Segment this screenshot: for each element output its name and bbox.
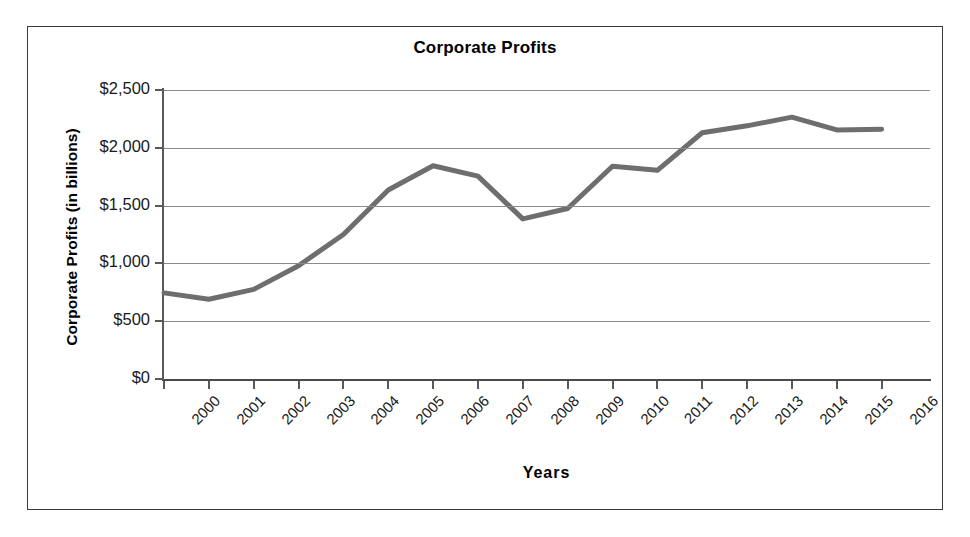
gridline — [163, 206, 930, 207]
x-axis-title: Years — [163, 464, 930, 482]
x-axis-line — [162, 379, 931, 381]
data-series-line — [163, 90, 930, 379]
x-axis-tick — [836, 381, 838, 389]
y-axis-tick — [155, 262, 164, 264]
y-axis-tick-label: $500 — [46, 310, 150, 329]
x-axis-tick — [701, 381, 703, 389]
y-axis-tick — [155, 89, 164, 91]
x-axis-tick — [522, 381, 524, 389]
gridline — [163, 90, 930, 91]
y-axis-tick — [155, 147, 164, 149]
gridline — [163, 263, 930, 264]
x-axis-tick — [253, 381, 255, 389]
x-axis-tick — [567, 381, 569, 389]
gridline — [163, 148, 930, 149]
x-axis-tick — [387, 381, 389, 389]
y-axis-tick-label: $2,000 — [46, 137, 150, 156]
x-axis-tick — [881, 381, 883, 389]
y-axis-tick — [155, 378, 164, 380]
x-axis-tick — [746, 381, 748, 389]
x-axis-tick — [477, 381, 479, 389]
y-axis-tick-label: $0 — [46, 368, 150, 387]
chart-title: Corporate Profits — [85, 38, 885, 58]
chart-figure: Corporate Profits Corporate Profits (in … — [0, 0, 970, 537]
y-axis-tick — [155, 205, 164, 207]
y-axis-tick-label: $2,500 — [46, 79, 150, 98]
x-axis-tick — [298, 381, 300, 389]
x-axis-tick — [208, 381, 210, 389]
y-axis-tick-label: $1,000 — [46, 252, 150, 271]
x-axis-tick — [656, 381, 658, 389]
gridline — [163, 321, 930, 322]
x-axis-tick — [342, 381, 344, 389]
y-axis-tick-labels: $0$500$1,000$1,500$2,000$2,500 — [46, 0, 150, 537]
x-axis-tick — [791, 381, 793, 389]
y-axis-tick-label: $1,500 — [46, 195, 150, 214]
plot-area — [163, 90, 930, 379]
y-axis-tick — [155, 320, 164, 322]
x-axis-tick — [612, 381, 614, 389]
x-axis-tick — [432, 381, 434, 389]
x-axis-tick — [163, 381, 165, 389]
